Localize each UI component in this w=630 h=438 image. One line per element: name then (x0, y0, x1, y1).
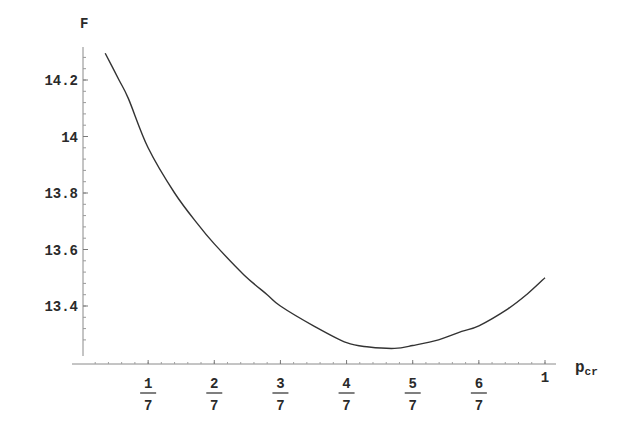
y-tick-label: 13.8 (44, 186, 78, 202)
x-tick-denominator: 7 (144, 398, 152, 414)
y-axis: 13.413.613.81414.2 F (44, 16, 88, 356)
x-tick-denominator: 7 (276, 398, 284, 414)
x-tick-label: 1 (541, 370, 549, 386)
x-ticks: 1727374757671 (95, 360, 549, 414)
x-axis-title-subscript: cr (585, 366, 598, 378)
y-tick-label: 13.6 (44, 243, 78, 259)
x-tick-numerator: 2 (210, 376, 218, 392)
x-tick-numerator: 1 (144, 376, 152, 392)
y-tick-label: 14 (61, 130, 78, 146)
x-tick-denominator: 7 (342, 398, 350, 414)
x-tick-numerator: 5 (409, 376, 417, 392)
x-tick-numerator: 3 (276, 376, 284, 392)
y-tick-label: 13.4 (44, 299, 78, 315)
x-tick-denominator: 7 (210, 398, 218, 414)
x-axis-title: pcr (575, 359, 598, 378)
y-axis-title: F (80, 16, 88, 32)
x-tick-numerator: 4 (342, 376, 350, 392)
line-chart: 13.413.613.81414.2 F 1727374757671 pcr (0, 0, 630, 438)
data-line-F (105, 53, 545, 348)
x-tick-denominator: 7 (409, 398, 417, 414)
y-major-ticks: 13.413.613.81414.2 (44, 73, 88, 315)
x-axis: 1727374757671 pcr (72, 359, 598, 414)
x-tick-denominator: 7 (475, 398, 483, 414)
x-axis-title-main: p (575, 359, 585, 377)
x-tick-numerator: 6 (475, 376, 483, 392)
y-tick-label: 14.2 (44, 73, 78, 89)
